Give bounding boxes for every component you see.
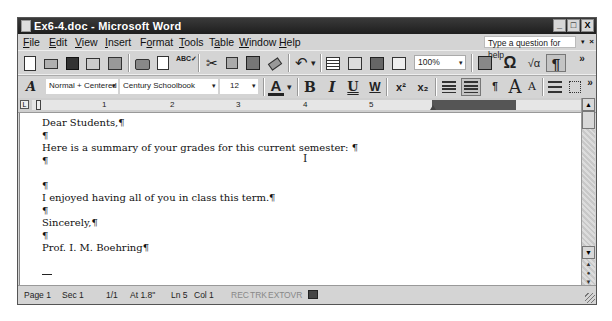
- save-button[interactable]: [64, 54, 80, 72]
- align-center-icon: [464, 81, 478, 93]
- more-icon: »: [579, 53, 585, 64]
- status-line[interactable]: Ln 5: [171, 286, 188, 304]
- horizontal-ruler[interactable]: L 1 2 3 4 5: [18, 98, 596, 113]
- resize-grip-icon[interactable]: [585, 293, 595, 303]
- insert-symbol-button[interactable]: Ω: [500, 54, 520, 72]
- copy-button[interactable]: [224, 54, 240, 72]
- help-question-input[interactable]: Type a question for help: [484, 36, 576, 48]
- grow-font-button[interactable]: A: [506, 78, 524, 96]
- font-value: Century Schoolbook: [123, 81, 195, 90]
- menu-edit-accel: E: [49, 36, 56, 48]
- document-map-button[interactable]: [368, 54, 386, 72]
- tab-selector-button[interactable]: L: [20, 100, 29, 109]
- cut-button[interactable]: ✂: [204, 54, 220, 72]
- status-page[interactable]: Page 1: [24, 286, 51, 304]
- scroll-down-button[interactable]: ▼: [582, 246, 595, 259]
- styles-button[interactable]: A: [22, 78, 40, 96]
- status-position[interactable]: At 1.8": [130, 286, 155, 304]
- new-button[interactable]: [22, 54, 38, 72]
- status-ovr[interactable]: OVR: [284, 286, 302, 304]
- menu-file[interactable]: File: [23, 34, 40, 50]
- align-left-button[interactable]: [440, 78, 458, 96]
- toolbar-separator: [435, 78, 437, 96]
- menu-window-accel: W: [239, 36, 249, 48]
- ruler-number: 2: [170, 98, 174, 112]
- subscript-icon: x₂: [417, 81, 428, 93]
- toolbar-separator: [198, 54, 200, 72]
- format-painter-button[interactable]: [266, 54, 284, 72]
- pilcrow-icon: ¶: [552, 55, 560, 72]
- show-hide-button[interactable]: ¶: [546, 54, 566, 72]
- select-browse-object-button[interactable]: ●: [582, 269, 595, 278]
- right-indent-marker[interactable]: [430, 105, 436, 110]
- print-preview-button[interactable]: [154, 54, 172, 72]
- menu-insert[interactable]: Insert: [105, 34, 131, 50]
- close-button[interactable]: X: [581, 19, 594, 32]
- document-area[interactable]: Dear Students,¶ ¶ Here is a summary of y…: [19, 113, 581, 287]
- scroll-thumb[interactable]: [582, 111, 595, 129]
- spelling-button[interactable]: ABC✓: [176, 54, 194, 72]
- insert-equation-button[interactable]: √α: [524, 54, 544, 72]
- word-underline-button[interactable]: W: [367, 78, 383, 96]
- menu-window[interactable]: Window: [239, 34, 276, 50]
- menu-tools[interactable]: Tools: [179, 34, 204, 50]
- minimize-button[interactable]: _: [553, 19, 566, 32]
- maximize-button[interactable]: □: [567, 19, 580, 32]
- status-trk[interactable]: TRK: [250, 286, 267, 304]
- word-document-icon[interactable]: [21, 20, 31, 32]
- rtl-button[interactable]: ¶: [486, 78, 504, 96]
- vertical-scrollbar[interactable]: ▲ ▼ ▲ ● ▼: [581, 98, 595, 287]
- underline-button[interactable]: U: [345, 78, 361, 96]
- scroll-up-button[interactable]: ▲: [582, 98, 595, 111]
- bold-button[interactable]: B: [302, 78, 318, 96]
- font-select[interactable]: Century Schoolbook▾: [120, 79, 218, 94]
- email-button[interactable]: [106, 54, 124, 72]
- menu-table[interactable]: Table: [209, 34, 234, 50]
- status-section[interactable]: Sec 1: [62, 286, 84, 304]
- ruler-margin-area: [432, 100, 516, 110]
- zoom-select[interactable]: 100%▾: [414, 55, 466, 70]
- document-line: ¶: [42, 130, 358, 143]
- left-indent-marker[interactable]: [36, 100, 41, 110]
- help-dropdown-icon[interactable]: ▾: [581, 34, 585, 50]
- menu-help[interactable]: Help: [279, 34, 301, 50]
- status-ext[interactable]: EXT: [268, 286, 285, 304]
- close-document-icon[interactable]: ×: [589, 34, 594, 50]
- previous-page-button[interactable]: ▲: [582, 260, 595, 269]
- font-color-dropdown[interactable]: ▾: [285, 78, 294, 96]
- read-button[interactable]: [476, 54, 494, 72]
- status-rec[interactable]: REC: [231, 286, 249, 304]
- columns-button[interactable]: [346, 54, 364, 72]
- shrink-font-icon: A: [528, 80, 536, 93]
- menu-view[interactable]: View: [75, 34, 98, 50]
- toolbar-options-button[interactable]: »: [585, 78, 595, 96]
- title-bar[interactable]: Ex6-4.doc - Microsoft Word _ □ X: [18, 18, 596, 34]
- menu-format[interactable]: Format: [140, 34, 173, 50]
- status-page-count[interactable]: 1/1: [106, 286, 118, 304]
- font-size-select[interactable]: 12▾: [220, 79, 258, 94]
- bullets-button[interactable]: [547, 78, 563, 96]
- italic-button[interactable]: I: [324, 78, 340, 96]
- open-button[interactable]: [42, 54, 60, 72]
- menu-edit[interactable]: Edit: [49, 34, 67, 50]
- font-color-button[interactable]: A: [268, 78, 284, 96]
- subscript-button[interactable]: x₂: [414, 78, 432, 96]
- undo-dropdown-button[interactable]: ▾: [309, 54, 318, 72]
- borders-button[interactable]: [567, 78, 583, 96]
- shrink-font-button[interactable]: A: [525, 78, 539, 96]
- undo-button[interactable]: ↶: [293, 54, 309, 72]
- paste-button[interactable]: [244, 54, 262, 72]
- print-button[interactable]: [133, 54, 151, 72]
- document-text[interactable]: Dear Students,¶ ¶ Here is a summary of y…: [42, 117, 358, 255]
- superscript-button[interactable]: x²: [392, 78, 410, 96]
- reading-layout-button[interactable]: [390, 54, 408, 72]
- toolbar-options-button[interactable]: »: [575, 54, 589, 72]
- center-button[interactable]: [461, 78, 481, 96]
- style-select[interactable]: Normal + Centered▾: [46, 79, 118, 94]
- permission-button[interactable]: [84, 54, 102, 72]
- align-left-icon: [442, 81, 456, 93]
- insert-table-button[interactable]: [324, 54, 342, 72]
- spelling-status-icon[interactable]: [308, 290, 318, 299]
- status-column[interactable]: Col 1: [194, 286, 214, 304]
- status-bar: Page 1 Sec 1 1/1 At 1.8" Ln 5 Col 1 REC …: [18, 285, 596, 304]
